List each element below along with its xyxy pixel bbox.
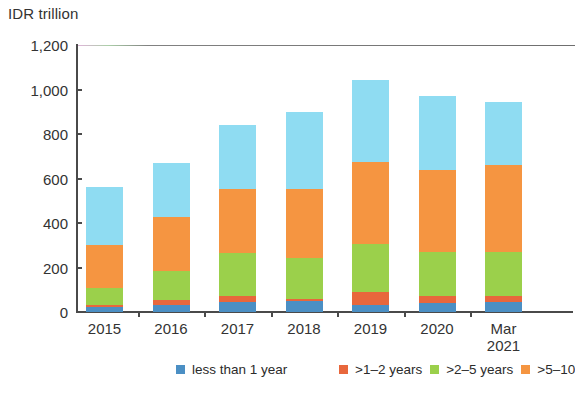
y-axis-tick-label: 200 bbox=[43, 259, 68, 276]
bar-segment bbox=[153, 163, 190, 217]
y-axis-tick-label: 1,200 bbox=[30, 37, 68, 54]
bar-segment bbox=[286, 112, 323, 189]
bar-segment bbox=[286, 258, 323, 299]
bar-segment bbox=[419, 252, 456, 297]
y-axis-tick-label: 600 bbox=[43, 170, 68, 187]
bar-segment bbox=[485, 302, 522, 312]
bar-segment bbox=[352, 305, 389, 312]
legend-item[interactable]: >2–5 years bbox=[430, 360, 513, 379]
y-axis-tick-label: 1,000 bbox=[30, 81, 68, 98]
y-axis-tick-mark bbox=[76, 178, 82, 180]
bar-segment bbox=[352, 244, 389, 292]
legend-item[interactable]: >1–2 years bbox=[339, 360, 422, 379]
legend-swatch bbox=[339, 365, 348, 374]
bar-segment bbox=[485, 165, 522, 252]
bar-segment bbox=[153, 305, 190, 312]
y-axis-tick-mark bbox=[76, 89, 82, 91]
legend-label: >5–10 years bbox=[537, 362, 575, 377]
legend-label: less than 1 year bbox=[192, 362, 287, 377]
bar-column bbox=[352, 80, 389, 312]
bar-segment bbox=[352, 162, 389, 244]
scan-artifact-line bbox=[78, 45, 575, 46]
stacked-bar-chart: IDR trillion 02004006008001,0001,200 201… bbox=[0, 0, 575, 419]
bar-segment bbox=[86, 288, 123, 305]
bar-segment bbox=[419, 303, 456, 312]
legend-swatch bbox=[521, 365, 530, 374]
legend-item[interactable]: >5–10 years bbox=[521, 360, 575, 379]
bar-segment bbox=[153, 271, 190, 300]
bar-column bbox=[219, 125, 256, 312]
bar-segment bbox=[219, 253, 256, 296]
bar-column bbox=[419, 96, 456, 312]
bar-segment bbox=[286, 189, 323, 258]
bar-segment bbox=[286, 301, 323, 312]
bar-segment bbox=[419, 170, 456, 252]
bar-segment bbox=[219, 302, 256, 312]
y-axis-tick-mark bbox=[76, 222, 82, 224]
bar-segment bbox=[485, 252, 522, 297]
x-axis-tick-mark bbox=[271, 311, 273, 317]
bar-segment bbox=[86, 245, 123, 288]
bar-column bbox=[86, 187, 123, 312]
bar-segment bbox=[219, 189, 256, 254]
bar-column bbox=[286, 112, 323, 312]
bar-segment bbox=[352, 80, 389, 162]
y-axis-tick-mark bbox=[76, 267, 82, 269]
legend-label: >1–2 years bbox=[355, 362, 422, 377]
x-axis-tick-label: Mar 2021 bbox=[464, 320, 544, 354]
bar-segment bbox=[485, 102, 522, 165]
bar-segment bbox=[352, 292, 389, 305]
bar-segment bbox=[86, 307, 123, 312]
y-axis-title: IDR trillion bbox=[8, 5, 78, 22]
bar-column bbox=[153, 163, 190, 312]
chart-legend: less than 1 year>1–2 years>2–5 years>5–1… bbox=[176, 360, 516, 379]
y-axis-tick-label: 400 bbox=[43, 215, 68, 232]
x-axis-tick-mark bbox=[138, 311, 140, 317]
x-axis-tick-mark bbox=[470, 311, 472, 317]
legend-swatch bbox=[430, 365, 439, 374]
x-axis-tick-mark bbox=[204, 311, 206, 317]
legend-item[interactable]: less than 1 year bbox=[176, 360, 331, 379]
x-axis-tick-mark bbox=[337, 311, 339, 317]
y-axis-tick-label: 0 bbox=[60, 304, 68, 321]
legend-swatch bbox=[176, 365, 185, 374]
bar-column bbox=[485, 102, 522, 312]
bar-segment bbox=[419, 96, 456, 169]
bar-segment bbox=[86, 187, 123, 244]
bar-segment bbox=[219, 125, 256, 188]
y-axis-tick-mark bbox=[76, 133, 82, 135]
x-axis-tick-mark bbox=[404, 311, 406, 317]
y-axis-tick-label: 800 bbox=[43, 126, 68, 143]
bar-segment bbox=[153, 217, 190, 270]
legend-label: >2–5 years bbox=[446, 362, 513, 377]
